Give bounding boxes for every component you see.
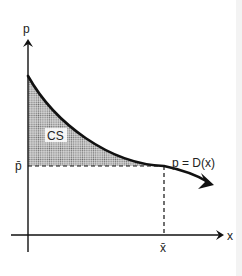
y-axis-label: p xyxy=(23,22,30,36)
consumer-surplus-region xyxy=(28,76,164,166)
demand-curve-label: p = D(x) xyxy=(172,156,215,170)
consumer-surplus-diagram: p x CS p = D(x) p̄ x̄ xyxy=(0,0,242,276)
price-mark-label: p̄ xyxy=(15,159,22,173)
demand-curve-arrowhead-icon xyxy=(198,173,214,189)
x-axis-label: x xyxy=(227,229,233,243)
quantity-mark-label: x̄ xyxy=(160,241,166,255)
consumer-surplus-label: CS xyxy=(47,129,64,143)
